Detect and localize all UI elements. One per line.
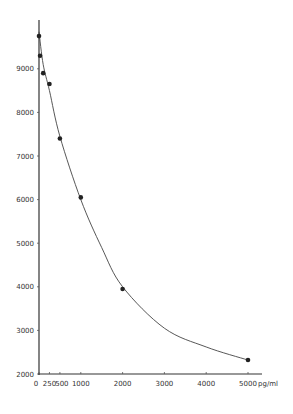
data-point <box>246 358 251 363</box>
x-tick-label: 500 <box>55 380 68 388</box>
y-tick-label: 9000 <box>16 65 34 73</box>
x-tick-label: 1000 <box>72 380 90 388</box>
y-tick-label: 5000 <box>16 240 34 248</box>
x-tick-label: 2000 <box>114 380 132 388</box>
y-tick-label: 3000 <box>16 327 34 335</box>
data-point <box>120 287 125 292</box>
data-point <box>38 53 43 58</box>
data-point <box>79 195 84 200</box>
y-tick-label: 4000 <box>16 283 34 291</box>
x-tick-label: 5000 <box>239 380 257 388</box>
x-tick-label: 0 <box>34 380 38 388</box>
data-point <box>37 34 42 39</box>
x-axis-label: pg/ml <box>258 380 278 388</box>
data-point <box>58 136 63 141</box>
data-point <box>41 71 46 76</box>
x-tick-label: 4000 <box>197 380 215 388</box>
y-tick-label: 6000 <box>16 196 34 204</box>
y-tick-label: 7000 <box>16 153 34 161</box>
y-tick-label: 2000 <box>16 371 34 379</box>
standard-curve-chart: 2000300040005000600070008000900002505001… <box>0 0 293 414</box>
data-point <box>47 82 52 87</box>
y-tick-label: 8000 <box>16 109 34 117</box>
x-tick-label: 3000 <box>155 380 173 388</box>
fitted-curve <box>39 32 248 360</box>
x-tick-label: 250 <box>43 380 56 388</box>
